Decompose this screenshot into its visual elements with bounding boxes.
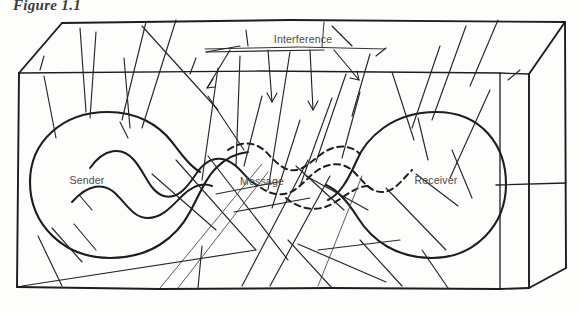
noise-line bbox=[298, 244, 386, 282]
noise-line bbox=[332, 26, 352, 46]
noise-line bbox=[80, 28, 86, 112]
interference-arrow-3-shaft bbox=[310, 50, 313, 110]
noise-line bbox=[300, 98, 332, 186]
noise-line bbox=[90, 32, 96, 118]
noise-line bbox=[40, 56, 44, 70]
noise-line bbox=[208, 156, 288, 260]
noise-line bbox=[422, 250, 448, 288]
noise-line bbox=[120, 122, 128, 138]
noise-line bbox=[198, 246, 202, 288]
interference-label: Interference bbox=[274, 33, 332, 45]
sender-label: Sender bbox=[69, 174, 104, 186]
noise-line bbox=[288, 240, 332, 288]
environment-box bbox=[17, 20, 566, 289]
noise-line bbox=[38, 236, 62, 286]
sender-blob-outline-upper bbox=[108, 112, 200, 172]
box-edge-top-right-diagonal bbox=[529, 22, 565, 74]
noise-line bbox=[470, 20, 498, 86]
box-edge-bottom-right-diagonal bbox=[529, 268, 566, 288]
noise-line bbox=[296, 166, 344, 210]
noise-line bbox=[202, 68, 218, 180]
box-edge-back-top bbox=[62, 20, 565, 23]
noise-line bbox=[360, 240, 402, 286]
noise-line bbox=[418, 118, 428, 160]
noise-line bbox=[508, 70, 520, 80]
box-edge-back-right bbox=[565, 22, 566, 268]
noise-line bbox=[44, 76, 56, 138]
interference-noise-lines bbox=[22, 20, 520, 288]
noise-line bbox=[52, 228, 82, 262]
sender-blob-outline bbox=[30, 112, 248, 258]
box-edge-front-left bbox=[17, 73, 19, 287]
diagram-canvas: Interference Sender Message Receiver bbox=[0, 0, 579, 312]
noise-line bbox=[142, 26, 218, 110]
noise-line bbox=[142, 20, 176, 128]
noise-line bbox=[392, 72, 414, 140]
noise-line bbox=[244, 96, 262, 166]
noise-line bbox=[74, 224, 96, 250]
noise-line bbox=[246, 30, 248, 46]
receiver-label: Receiver bbox=[414, 174, 457, 186]
message-wave-path-dashed-lower bbox=[286, 186, 368, 209]
noise-line bbox=[272, 120, 300, 208]
noise-line bbox=[22, 250, 256, 286]
noise-line bbox=[80, 196, 92, 210]
noise-line bbox=[412, 46, 440, 128]
noise-line bbox=[236, 56, 240, 166]
box-edge-front-bottom bbox=[17, 287, 529, 289]
box-edge-top-left-diagonal bbox=[19, 23, 62, 73]
noise-line bbox=[450, 90, 490, 178]
noise-line bbox=[306, 176, 368, 210]
message-label: Message bbox=[240, 175, 284, 187]
figure-root: Figure 1.1 bbox=[0, 0, 579, 312]
interference-arrow-4-shaft bbox=[334, 50, 359, 80]
message-wave-path-dashed-upper bbox=[228, 143, 360, 170]
sender-blob bbox=[30, 112, 248, 258]
box-edge-front-top bbox=[19, 71, 529, 74]
noise-line bbox=[352, 54, 370, 116]
diagram-labels: Interference Sender Message Receiver bbox=[69, 33, 457, 187]
noise-line bbox=[206, 50, 324, 52]
message-wave-path-solid-lower bbox=[72, 184, 212, 218]
interference-arrow-2-shaft bbox=[268, 50, 272, 102]
noise-line bbox=[318, 240, 400, 250]
noise-line bbox=[270, 176, 330, 286]
